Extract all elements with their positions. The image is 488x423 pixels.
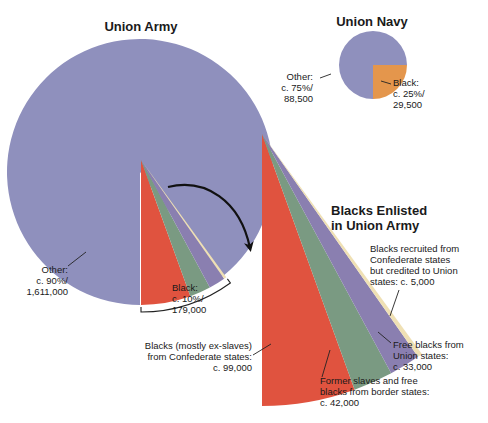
credited-label: Blacks recruited from Confederate states… — [370, 243, 459, 287]
navy-other-label: Other: c. 75%/ 88,500 — [281, 71, 313, 104]
svg-text:Blacks recruited from: Blacks recruited from — [370, 243, 459, 254]
svg-text:c. 25%/: c. 25%/ — [393, 88, 425, 99]
svg-text:but credited to Union: but credited to Union — [370, 265, 458, 276]
svg-text:Black:: Black: — [172, 282, 198, 293]
army-other-label: Other: c. 90%/ 1,611,000 — [26, 264, 68, 297]
svg-text:from Confederate states:: from Confederate states: — [147, 351, 252, 362]
navy-black-label: Black: c. 25%/ 29,500 — [393, 77, 425, 110]
svg-text:1,611,000: 1,611,000 — [26, 286, 68, 297]
svg-text:Black:: Black: — [393, 77, 419, 88]
confederate-label: Blacks (mostly ex-slaves) from Confedera… — [145, 340, 252, 373]
svg-text:Other:: Other: — [42, 264, 68, 275]
svg-text:c. 99,000: c. 99,000 — [213, 362, 252, 373]
free-union-label: Free blacks from Union states: c. 33,000 — [393, 339, 464, 372]
union-army-title: Union Army — [104, 19, 178, 34]
svg-text:c. 75%/: c. 75%/ — [281, 82, 313, 93]
enlistment-chart: Union Army Union Navy Blacks Enlisted in… — [0, 0, 488, 423]
svg-text:Blacks (mostly ex-slaves): Blacks (mostly ex-slaves) — [145, 340, 252, 351]
svg-text:Former slaves and free: Former slaves and free — [320, 375, 418, 386]
border-states-label: Former slaves and free blacks from borde… — [320, 375, 429, 408]
svg-text:29,500: 29,500 — [393, 99, 422, 110]
blacks-enlisted-title-line1: Blacks Enlisted — [331, 203, 427, 218]
svg-text:Free blacks from: Free blacks from — [393, 339, 464, 350]
svg-text:179,000: 179,000 — [172, 304, 206, 315]
svg-text:blacks from border states:: blacks from border states: — [320, 386, 429, 397]
svg-text:c. 33,000: c. 33,000 — [393, 361, 432, 372]
svg-text:Other:: Other: — [287, 71, 313, 82]
union-navy-title: Union Navy — [336, 14, 408, 29]
svg-text:states: c. 5,000: states: c. 5,000 — [370, 276, 434, 287]
svg-text:c. 42,000: c. 42,000 — [320, 397, 359, 408]
svg-text:Confederate states: Confederate states — [370, 254, 451, 265]
svg-text:88,500: 88,500 — [284, 93, 313, 104]
svg-text:Union states:: Union states: — [393, 350, 448, 361]
blacks-enlisted-title-line2: in Union Army — [331, 218, 420, 233]
svg-text:c. 90%/: c. 90%/ — [36, 275, 68, 286]
svg-text:c. 10%/: c. 10%/ — [172, 293, 204, 304]
